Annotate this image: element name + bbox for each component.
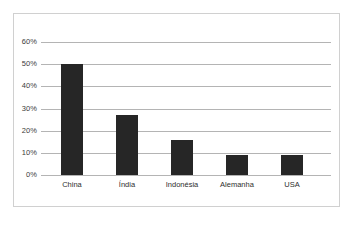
y-axis-tick-20: 20% — [22, 127, 37, 135]
bar-alemanha[interactable] — [226, 155, 248, 175]
bar-usa[interactable] — [281, 155, 303, 175]
x-axis-label-india: Índia — [119, 181, 135, 189]
x-axis-label-alemanha: Alemanha — [220, 181, 254, 189]
gridline-0-baseline: 0% — [41, 175, 331, 176]
y-axis-tick-40: 40% — [22, 82, 37, 90]
chart-frame: 60% 50% 40% 30% 20% 10% 0% China — [13, 13, 340, 207]
bar-indonesia[interactable] — [171, 140, 193, 175]
x-axis-label-indonesia: Indonésia — [166, 181, 199, 189]
x-axis-label-china: China — [62, 181, 82, 189]
bar-group-indonesia: Indonésia — [156, 42, 208, 175]
bar-group-india: Índia — [101, 42, 153, 175]
x-axis-label-usa: USA — [284, 181, 299, 189]
bar-group-alemanha: Alemanha — [211, 42, 263, 175]
bar-group-china: China — [46, 42, 98, 175]
bar-group-usa: USA — [266, 42, 318, 175]
bar-china[interactable] — [61, 64, 83, 175]
y-axis-tick-0: 0% — [26, 171, 37, 179]
plot-area: 60% 50% 40% 30% 20% 10% 0% China — [41, 42, 331, 189]
y-axis-tick-30: 30% — [22, 105, 37, 113]
y-axis-tick-10: 10% — [22, 149, 37, 157]
y-axis-tick-50: 50% — [22, 60, 37, 68]
y-axis-tick-60: 60% — [22, 38, 37, 46]
bar-india[interactable] — [116, 115, 138, 175]
bars-layer: China Índia Indonésia Alemanha USA — [41, 42, 331, 175]
